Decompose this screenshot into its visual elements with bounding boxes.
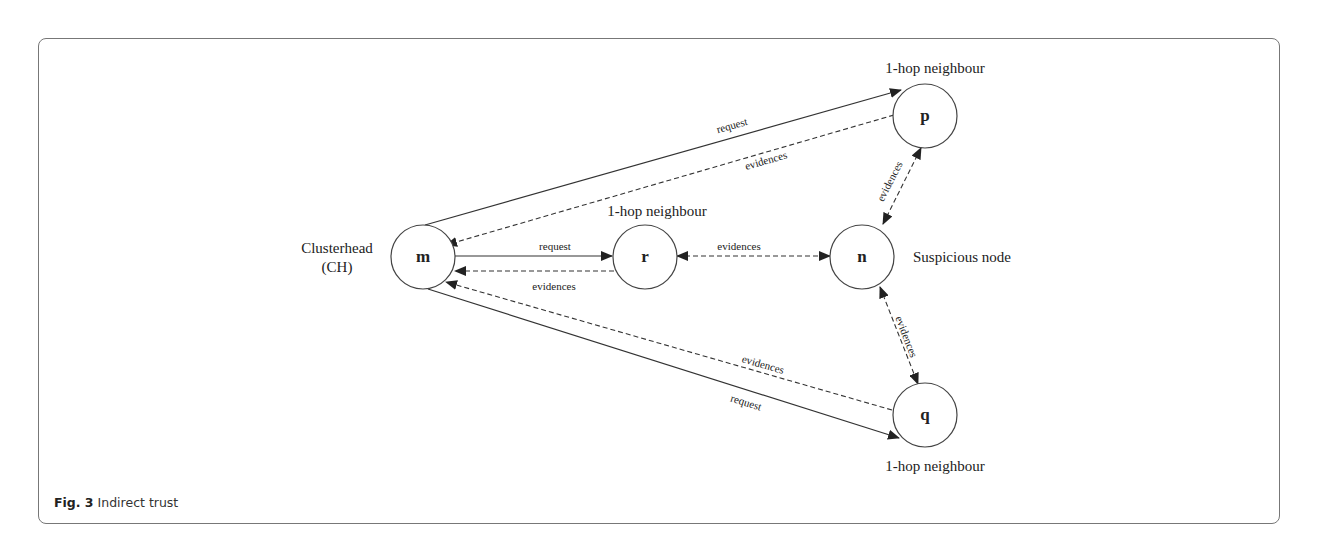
edge-label-m-q-request: request [729,392,763,413]
edge-m-q-request [428,289,899,438]
node-m-label-line2: (CH) [322,259,353,276]
edge-label-q-m-evidences: evidences [741,352,786,375]
figure-caption: Fig. 3 Indirect trust [54,495,178,510]
edge-q-m-evidences [446,282,892,410]
node-r: r [613,225,677,289]
edge-label-m-p-request: request [715,115,749,135]
node-p: p [893,84,957,148]
svg-text:q: q [920,405,930,424]
node-q-label: 1-hop neighbour [885,458,985,474]
indirect-trust-diagram: m r n p q Clusterhead (CH) 1-hop neighbo… [0,0,1324,551]
node-p-label: 1-hop neighbour [885,60,985,76]
node-m: m [391,225,455,289]
node-q: q [893,383,957,447]
node-n: n [830,225,894,289]
node-m-label-line1: Clusterhead [301,240,373,256]
svg-text:r: r [641,247,649,266]
svg-text:n: n [857,247,867,266]
edge-label-p-m-evidences: evidences [743,148,788,171]
edge-label-n-q-evidences: evidences [893,314,920,359]
svg-text:m: m [416,247,430,266]
edge-p-m-evidences [446,115,894,245]
edge-label-r-m-evidences: evidences [532,280,575,292]
node-r-label: 1-hop neighbour [607,203,707,219]
edge-label-m-r-request: request [539,240,571,252]
caption-title: Indirect trust [98,495,179,510]
svg-text:p: p [920,106,929,125]
edge-label-r-n-evidences: evidences [717,240,760,252]
caption-figure-number: Fig. 3 [54,495,94,510]
edge-label-p-n-evidences: evidences [874,159,904,203]
node-n-label: Suspicious node [913,249,1011,265]
